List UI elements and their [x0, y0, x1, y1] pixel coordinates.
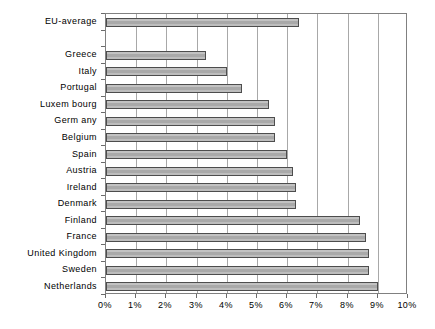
x-axis-tick	[165, 294, 166, 298]
y-axis-tick	[101, 195, 105, 196]
y-axis-tick	[101, 46, 105, 47]
x-axis-tick	[226, 294, 227, 298]
bar-row	[106, 264, 406, 276]
bar	[106, 266, 369, 275]
bar	[106, 18, 299, 27]
bar	[106, 249, 369, 258]
category-label: Netherlands	[44, 281, 97, 291]
x-axis-tick-label: 9%	[370, 300, 384, 310]
bar	[106, 133, 275, 142]
y-axis-tick	[101, 63, 105, 64]
category-label: Luxem bourg	[40, 99, 97, 109]
x-axis-tick	[105, 294, 106, 298]
plot-area	[105, 13, 407, 294]
y-axis-tick	[101, 30, 105, 31]
bar	[106, 200, 296, 209]
y-axis-tick	[101, 277, 105, 278]
bar-row	[106, 132, 406, 144]
bar-row	[106, 182, 406, 194]
bar-row	[106, 281, 406, 293]
bar-row	[106, 82, 406, 94]
category-label: Belgium	[62, 132, 97, 142]
category-label: EU-average	[45, 16, 97, 26]
bar-row	[106, 49, 406, 61]
y-axis-tick	[101, 96, 105, 97]
bar	[106, 117, 275, 126]
bar-rows	[106, 14, 406, 293]
x-axis-tick-label: 3%	[189, 300, 203, 310]
bar-row	[106, 248, 406, 260]
x-axis-tick	[196, 294, 197, 298]
x-axis-tick-label: 5%	[249, 300, 263, 310]
bar	[106, 84, 242, 93]
category-label: Greece	[65, 49, 97, 59]
bar-row	[106, 165, 406, 177]
category-label: Sweden	[62, 264, 97, 274]
bar	[106, 167, 293, 176]
bar	[106, 67, 227, 76]
x-axis-tick	[256, 294, 257, 298]
bar-row	[106, 16, 406, 28]
bar-row	[106, 149, 406, 161]
x-axis-tick	[286, 294, 287, 298]
bar	[106, 233, 366, 242]
bar-row	[106, 231, 406, 243]
category-label: Denmark	[58, 198, 97, 208]
x-axis-tick	[347, 294, 348, 298]
y-axis-tick	[101, 145, 105, 146]
x-axis-tick-labels: 0%1%2%3%4%5%6%7%8%9%10%	[0, 300, 435, 320]
y-axis-tick	[101, 211, 105, 212]
category-label: France	[67, 231, 97, 241]
y-axis-tick	[101, 244, 105, 245]
category-label: Ireland	[67, 182, 97, 192]
y-axis-tick	[101, 79, 105, 80]
x-axis-tick-label: 7%	[309, 300, 323, 310]
y-axis-tick	[101, 178, 105, 179]
bar-chart: EU-averageGreeceItalyPortugalLuxem bourg…	[0, 0, 435, 329]
x-axis-tick-label: 0%	[98, 300, 112, 310]
bar	[106, 100, 269, 109]
y-axis-tick	[101, 13, 105, 14]
category-label: Portugal	[60, 82, 97, 92]
category-label: Finland	[65, 215, 97, 225]
category-label: Germ any	[54, 115, 97, 125]
x-axis-tick-label: 4%	[219, 300, 233, 310]
bar	[106, 51, 206, 60]
bar-row	[106, 115, 406, 127]
category-label: United Kingdom	[27, 248, 97, 258]
bar	[106, 183, 296, 192]
y-axis-tick	[101, 261, 105, 262]
x-axis-tick-label: 10%	[397, 300, 416, 310]
bar-row	[106, 215, 406, 227]
x-axis-tick-label: 8%	[340, 300, 354, 310]
category-label: Spain	[72, 149, 97, 159]
x-axis-tick-label: 2%	[158, 300, 172, 310]
bar	[106, 216, 360, 225]
category-label: Italy	[78, 66, 97, 76]
bar	[106, 150, 287, 159]
bar-row	[106, 198, 406, 210]
x-axis-tick	[407, 294, 408, 298]
y-axis-tick	[101, 228, 105, 229]
y-axis-tick	[101, 129, 105, 130]
category-label: Austria	[66, 165, 97, 175]
y-axis-category-labels: EU-averageGreeceItalyPortugalLuxem bourg…	[0, 13, 101, 294]
y-axis-tick	[101, 112, 105, 113]
x-axis-tick-label: 6%	[279, 300, 293, 310]
bar-row	[106, 99, 406, 111]
y-axis-tick	[101, 162, 105, 163]
x-axis-tick	[316, 294, 317, 298]
x-axis-tick	[377, 294, 378, 298]
bar-row	[106, 33, 406, 45]
bar	[106, 282, 378, 291]
bar-row	[106, 66, 406, 78]
x-axis-tick	[135, 294, 136, 298]
x-axis-tick-label: 1%	[128, 300, 142, 310]
